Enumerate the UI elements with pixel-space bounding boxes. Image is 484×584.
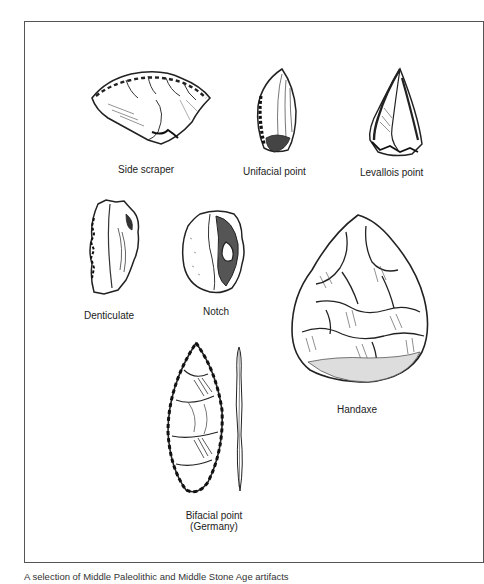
figure-caption: A selection of Middle Paleolithic and Mi… <box>24 571 289 582</box>
denticulate-label: Denticulate <box>84 310 134 321</box>
handaxe-illustration <box>286 212 436 387</box>
bifacial-point-label-main: Bifacial point <box>172 510 256 521</box>
levallois-point-illustration <box>360 66 430 161</box>
notch-illustration <box>178 208 250 298</box>
notch-label: Notch <box>203 306 229 317</box>
bifacial-point-illustration <box>164 340 228 500</box>
side-scraper-illustration <box>86 40 216 150</box>
unifacial-point-illustration <box>252 66 302 156</box>
levallois-point-label: Levallois point <box>360 167 423 178</box>
bifacial-point-label: Bifacial point (Germany) <box>172 510 256 532</box>
handaxe-label: Handaxe <box>337 404 377 415</box>
bifacial-point-profile-illustration <box>232 345 246 495</box>
denticulate-illustration <box>84 198 144 298</box>
unifacial-point-label: Unifacial point <box>243 166 306 177</box>
side-scraper-label: Side scraper <box>118 164 174 175</box>
bifacial-point-label-sub: (Germany) <box>172 521 256 532</box>
